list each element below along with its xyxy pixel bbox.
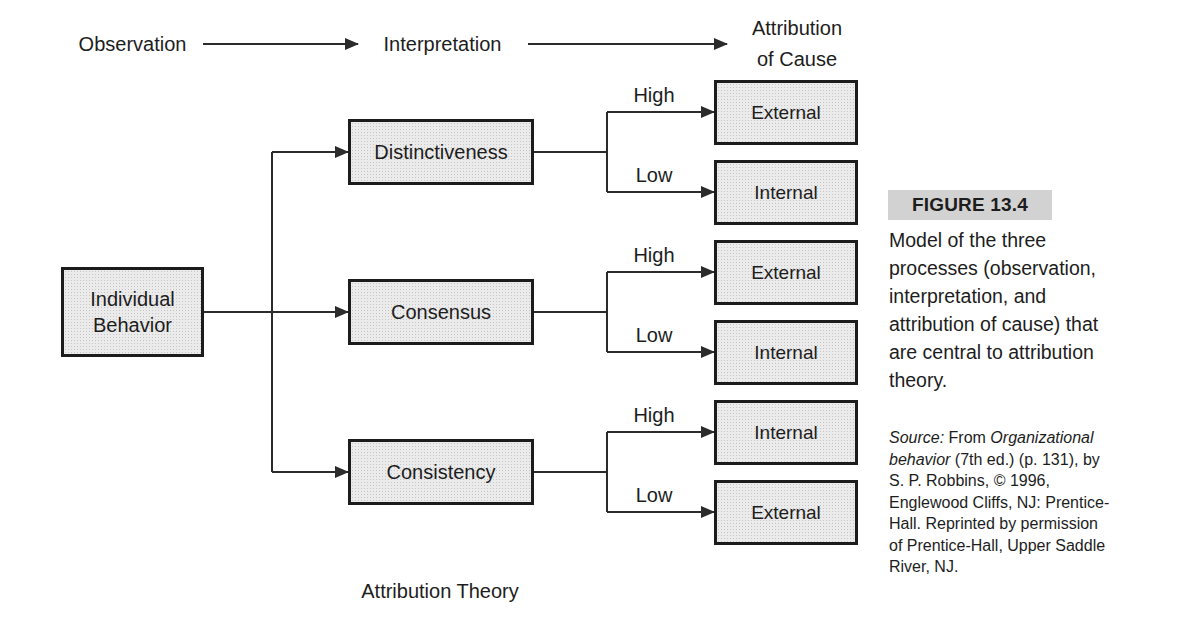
outcome-box-consensus-low: Internal: [714, 320, 858, 385]
outcome-label: External: [751, 100, 821, 126]
source-segment: (7th ed.) (p. 131), by S. P. Robbins, © …: [889, 451, 1109, 576]
outcome-box-distinctiveness-low: Internal: [714, 160, 858, 225]
high-label-consistency: High: [618, 404, 690, 426]
factor-box-distinctiveness: Distinctiveness: [348, 119, 534, 185]
outcome-label: External: [751, 500, 821, 526]
source-segment: Source:: [889, 429, 944, 446]
outcome-label: Internal: [754, 180, 817, 206]
individual-behavior-box: Individual Behavior: [61, 267, 204, 357]
high-label-distinctiveness: High: [618, 84, 690, 106]
factor-label-distinctiveness: Distinctiveness: [374, 139, 507, 165]
diagram-caption: Attribution Theory: [340, 580, 540, 603]
source-segment: From: [944, 429, 990, 446]
outcome-label: External: [751, 260, 821, 286]
outcome-label: Internal: [754, 340, 817, 366]
factor-label-consensus: Consensus: [391, 299, 491, 325]
factor-box-consistency: Consistency: [348, 439, 534, 505]
high-label-consensus: High: [618, 244, 690, 266]
source-text: Source: From Organizational behavior (7t…: [889, 427, 1115, 578]
low-label-distinctiveness: Low: [618, 164, 690, 186]
outcome-box-consistency-low: External: [714, 480, 858, 545]
figure-number-badge: FIGURE 13.4: [888, 190, 1052, 220]
factor-label-consistency: Consistency: [387, 459, 496, 485]
individual-behavior-line2: Behavior: [93, 312, 172, 338]
low-label-consensus: Low: [618, 324, 690, 346]
outcome-box-consensus-high: External: [714, 240, 858, 305]
individual-behavior-line1: Individual: [90, 286, 175, 312]
stage-label-attribution-line2: of Cause: [737, 44, 857, 75]
stage-label-observation: Observation: [70, 29, 195, 60]
figure-canvas: Observation Interpretation Attribution o…: [0, 0, 1197, 621]
stage-label-attribution-of-cause: Attribution of Cause: [737, 13, 857, 75]
figure-caption: Model of the three processes (observatio…: [889, 226, 1101, 394]
stage-label-attribution-line1: Attribution: [737, 13, 857, 44]
outcome-box-distinctiveness-high: External: [714, 80, 858, 145]
factor-box-consensus: Consensus: [348, 279, 534, 345]
stage-label-interpretation: Interpretation: [370, 29, 515, 60]
low-label-consistency: Low: [618, 484, 690, 506]
outcome-box-consistency-high: Internal: [714, 400, 858, 465]
outcome-label: Internal: [754, 420, 817, 446]
